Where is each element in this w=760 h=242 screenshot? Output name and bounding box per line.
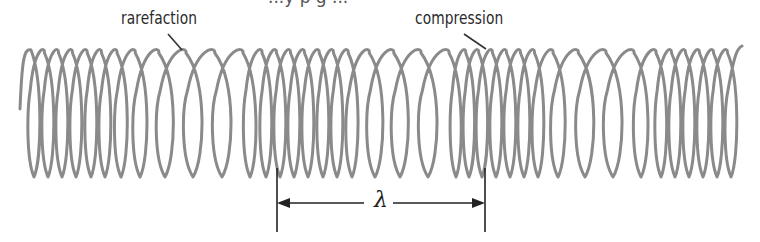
rarefaction-label: rarefaction xyxy=(121,8,197,28)
cutoff-heading-text: ...y p g ... xyxy=(268,0,348,7)
compression-leader-line xyxy=(464,34,486,49)
wavelength-symbol: λ xyxy=(371,187,391,212)
compression-label: compression xyxy=(415,8,503,28)
arrowhead-right-icon xyxy=(472,198,485,208)
spring-coil xyxy=(20,46,742,177)
spring-wave-diagram: ...y p g ... rarefaction compression λ xyxy=(0,0,760,242)
rarefaction-leader-line xyxy=(168,34,182,50)
arrowhead-left-icon xyxy=(277,198,290,208)
